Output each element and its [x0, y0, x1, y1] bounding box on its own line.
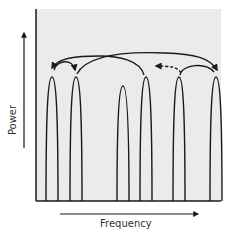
- x-axis-label: Frequency: [100, 218, 152, 229]
- arc-peak-5-to-6-icon: [180, 66, 214, 75]
- power-frequency-diagram: [0, 0, 229, 239]
- peak-6: [210, 77, 222, 201]
- peak-1: [46, 77, 58, 201]
- y-axis-label: Power: [2, 100, 22, 140]
- peak-4: [140, 77, 152, 201]
- peak-3: [117, 86, 129, 201]
- y-axis-label-text: Power: [7, 105, 18, 135]
- transition-arrows: [52, 53, 217, 75]
- peak-2: [70, 77, 82, 201]
- peak-5: [173, 77, 185, 201]
- dashed-arrow-icon: [156, 66, 181, 73]
- spectral-peaks: [46, 77, 222, 201]
